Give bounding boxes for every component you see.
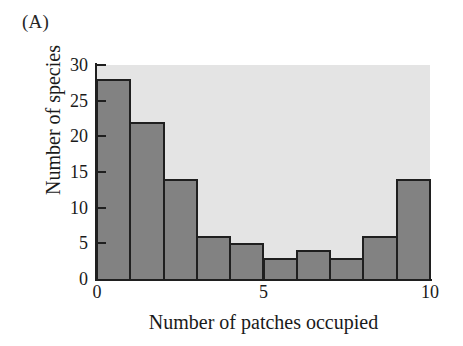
- y-axis-tick: [97, 242, 106, 244]
- histogram-bar: [296, 250, 331, 279]
- histogram-bar: [129, 122, 164, 279]
- histogram-bar: [396, 179, 431, 279]
- x-axis-title: Number of patches occupied: [97, 312, 430, 332]
- histogram-bar: [362, 236, 397, 279]
- y-axis-tick: [97, 135, 106, 137]
- histogram-bar: [163, 179, 198, 279]
- y-axis-tick-label: 5: [24, 234, 88, 252]
- plot-area: [97, 65, 430, 279]
- y-axis-tick-label: 25: [24, 92, 88, 110]
- x-axis-tick-label: 0: [67, 283, 127, 301]
- x-axis-tick-label: 5: [234, 283, 294, 301]
- histogram-bar: [329, 258, 364, 279]
- y-axis-tick-label: 30: [24, 56, 88, 74]
- y-axis-tick-label: 10: [24, 199, 88, 217]
- y-axis-tick: [97, 207, 106, 209]
- histogram-bar: [229, 243, 264, 279]
- y-axis-tick: [97, 100, 106, 102]
- figure-panel-a: (A) Number of species 051015202530 0510 …: [0, 0, 463, 346]
- y-axis-tick-label: 20: [24, 127, 88, 145]
- histogram-bar: [196, 236, 231, 279]
- x-axis-tick-label: 10: [400, 283, 460, 301]
- histogram-bar: [96, 79, 131, 279]
- y-axis-tick-label: 15: [24, 163, 88, 181]
- histogram-bar: [263, 258, 298, 279]
- y-axis-tick: [97, 64, 106, 66]
- y-axis-tick: [97, 171, 106, 173]
- x-axis-tick: [263, 270, 265, 280]
